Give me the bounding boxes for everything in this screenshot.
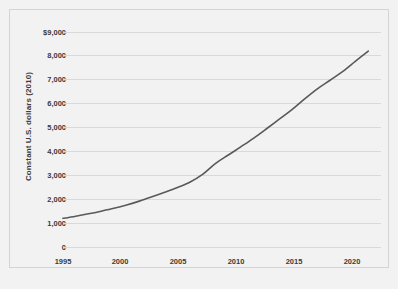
chart-plot xyxy=(10,10,390,269)
gridlines xyxy=(63,32,381,247)
screenshot-root: Constant U.S. dollars (2010) $9,000 8,00… xyxy=(0,0,398,289)
data-series-line xyxy=(63,51,368,218)
chart-card: Constant U.S. dollars (2010) $9,000 8,00… xyxy=(9,9,389,268)
chart-area: Constant U.S. dollars (2010) $9,000 8,00… xyxy=(10,10,390,269)
